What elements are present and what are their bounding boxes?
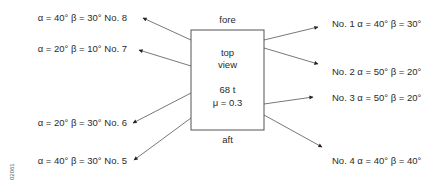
arrow-no7: [139, 50, 191, 66]
label-no5: α = 40° β = 30° No. 5: [38, 156, 127, 166]
arrow-no3: [264, 97, 313, 104]
box-text-friction: μ = 0.3: [191, 98, 264, 108]
fore-label: fore: [191, 15, 264, 25]
box-text-top: top: [191, 48, 264, 58]
arrow-no8: [143, 18, 191, 40]
label-no7: α = 20° β = 10° No. 7: [38, 44, 127, 54]
arrow-no4: [264, 115, 322, 147]
arrow-no6: [133, 93, 191, 123]
figure-id: 02061: [9, 163, 15, 180]
label-no8: α = 40° β = 30° No. 8: [38, 13, 127, 23]
arrow-no1: [264, 27, 318, 40]
arrow-no2: [264, 48, 318, 64]
box-text-view: view: [191, 60, 264, 70]
vessel-box: [191, 30, 264, 130]
arrow-no5: [134, 118, 191, 160]
label-no3: No. 3 α = 50° β = 20°: [332, 93, 421, 103]
aft-label: aft: [191, 135, 264, 145]
label-no4: No. 4 α = 40° β = 40°: [332, 156, 421, 166]
label-no2: No. 2 α = 50° β = 20°: [332, 67, 421, 77]
label-no6: α = 20° β = 30° No. 6: [38, 118, 127, 128]
label-no1: No. 1 α = 40° β = 30°: [332, 19, 421, 29]
box-text-mass: 68 t: [191, 85, 264, 95]
